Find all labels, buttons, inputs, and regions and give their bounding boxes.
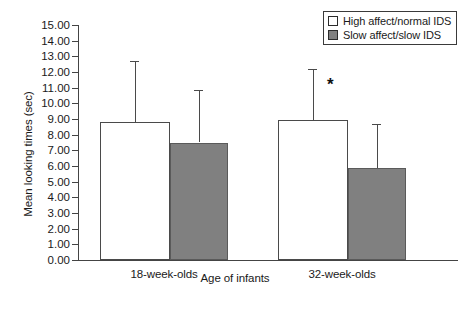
plot-area: 15.00 14.00 13.00 12.00 11.00 10.00 9.00… <box>78 25 458 260</box>
y-ticklabel-7: 7.00 <box>26 150 70 151</box>
y-ticklabel-3: 3.00 <box>26 213 70 214</box>
bar-32w-high-affect <box>278 120 348 260</box>
x-axis-title: Age of infants <box>0 272 470 284</box>
y-ticklabel-11: 11.00 <box>26 88 70 89</box>
y-tick-14 <box>72 41 78 42</box>
y-ticklabel-13: 13.00 <box>26 56 70 57</box>
errorbar-32w-slow-affect <box>377 124 378 168</box>
errorbar-32w-high-affect <box>313 69 314 120</box>
y-ticklabel-8: 8.00 <box>26 135 70 136</box>
y-tick-9 <box>72 119 78 120</box>
y-ticklabel-12: 12.00 <box>26 72 70 73</box>
significance-asterisk: * <box>327 76 334 93</box>
y-ticklabel-9: 9.00 <box>26 119 70 120</box>
y-axis-line <box>78 25 79 261</box>
errorbar-18w-slow-affect <box>199 90 200 143</box>
bar-32w-slow-affect <box>348 168 406 260</box>
y-axis-title: Mean looking times (sec) <box>22 54 34 254</box>
y-tick-8 <box>72 135 78 136</box>
y-ticklabel-15: 15.00 <box>26 25 70 26</box>
y-tick-7 <box>72 150 78 151</box>
y-tick-15 <box>72 25 78 26</box>
y-ticklabel-4: 4.00 <box>26 197 70 198</box>
errorbar-cap-18w-high-affect <box>130 61 139 62</box>
y-tick-6 <box>72 166 78 167</box>
y-tick-0 <box>72 260 78 261</box>
errorbar-cap-32w-high-affect <box>308 69 317 70</box>
x-axis-line <box>78 260 458 261</box>
errorbar-cap-18w-slow-affect <box>194 90 203 91</box>
y-tick-12 <box>72 72 78 73</box>
y-ticklabel-1: 1.00 <box>26 244 70 245</box>
errorbar-cap-32w-slow-affect <box>372 124 381 125</box>
y-tick-4 <box>72 197 78 198</box>
y-tick-13 <box>72 56 78 57</box>
y-ticklabel-0: 0.00 <box>26 260 70 261</box>
bar-18w-slow-affect <box>170 143 228 261</box>
y-tick-11 <box>72 88 78 89</box>
y-ticklabel-10: 10.00 <box>26 103 70 104</box>
y-tick-10 <box>72 103 78 104</box>
y-tick-2 <box>72 229 78 230</box>
errorbar-18w-high-affect <box>135 61 136 123</box>
y-tick-3 <box>72 213 78 214</box>
y-ticklabel-6: 6.00 <box>26 166 70 167</box>
y-tick-5 <box>72 182 78 183</box>
y-ticklabel-5: 5.00 <box>26 182 70 183</box>
y-ticklabel-14: 14.00 <box>26 41 70 42</box>
y-tick-1 <box>72 244 78 245</box>
y-ticklabel-2: 2.00 <box>26 229 70 230</box>
bar-18w-high-affect <box>100 122 170 260</box>
bar-chart-figure: High affect/normal IDS Slow affect/slow … <box>0 0 470 310</box>
